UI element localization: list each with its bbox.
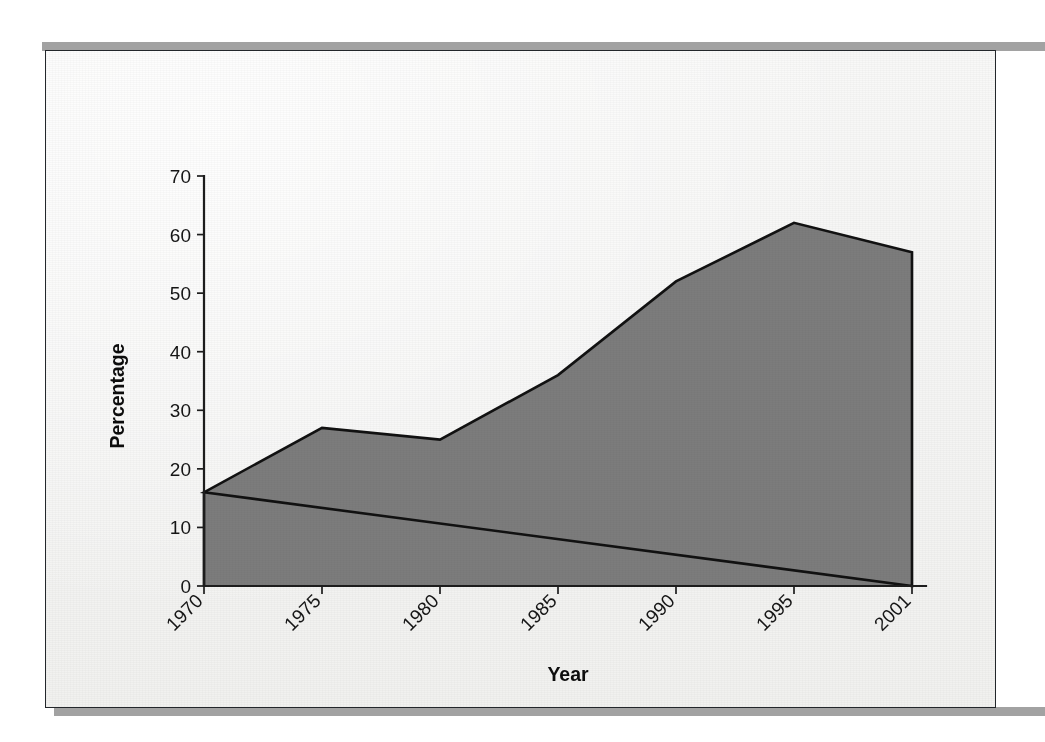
y-tick-label: 30	[170, 400, 191, 421]
series-area-fill	[204, 223, 912, 586]
y-tick-label: 40	[170, 342, 191, 363]
x-tick-label: 1980	[398, 590, 443, 635]
x-tick-label: 1985	[516, 590, 561, 635]
y-tick-label: 60	[170, 225, 191, 246]
x-tick-label: 2001	[870, 590, 915, 635]
area-chart: 0102030405060701970197519801985199019952…	[46, 51, 996, 708]
x-tick-label: 1990	[634, 590, 679, 635]
x-axis-title: Year	[547, 663, 589, 685]
chart-canvas: 0102030405060701970197519801985199019952…	[46, 51, 996, 708]
y-tick-label: 70	[170, 166, 191, 187]
y-tick-label: 50	[170, 283, 191, 304]
bottom-rule-bar	[54, 707, 1045, 716]
y-tick-label: 20	[170, 459, 191, 480]
x-tick-label: 1970	[162, 590, 207, 635]
y-tick-label: 10	[170, 517, 191, 538]
x-tick-label: 1975	[280, 590, 325, 635]
scanned-page: The expansion of secondary education acr…	[0, 0, 1045, 742]
figure-frame: 0102030405060701970197519801985199019952…	[45, 50, 996, 708]
x-tick-label: 1995	[752, 590, 797, 635]
y-axis-title: Percentage	[106, 343, 128, 448]
